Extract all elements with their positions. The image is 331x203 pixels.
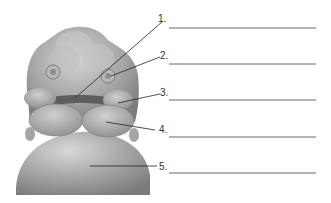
- label-number-4: 4.: [159, 125, 167, 135]
- body-bulge: [16, 132, 150, 195]
- diagram-canvas: [0, 0, 331, 203]
- label-number-5: 5.: [159, 162, 167, 172]
- label-number-3: 3.: [160, 88, 168, 98]
- left-mandibular-process: [29, 104, 83, 136]
- label-number-2: 2.: [160, 51, 168, 61]
- embryo-face-diagram: 1. 2. 3. 4. 5.: [0, 0, 331, 203]
- left-eye: [46, 65, 60, 79]
- label-number-1: 1.: [158, 14, 166, 24]
- right-mandibular-process: [82, 105, 134, 137]
- right-eye: [101, 69, 115, 83]
